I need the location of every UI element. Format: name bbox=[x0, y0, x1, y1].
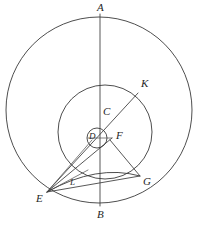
outer-circle bbox=[6, 17, 192, 203]
figure-canvas bbox=[0, 0, 199, 226]
segment-EF bbox=[47, 138, 112, 192]
point-label-A: A bbox=[97, 2, 104, 13]
point-label-G: G bbox=[143, 176, 151, 187]
point-label-K: K bbox=[141, 78, 148, 89]
point-label-D: D bbox=[89, 132, 96, 141]
point-label-F: F bbox=[116, 130, 123, 141]
segment-FG bbox=[110, 140, 140, 176]
geometry-figure: A B C D E F G K L bbox=[0, 0, 199, 226]
point-label-B: B bbox=[97, 209, 104, 220]
point-label-C: C bbox=[103, 106, 110, 117]
arc-E-L-G bbox=[47, 172, 140, 192]
point-label-E: E bbox=[36, 193, 43, 204]
segment-EG bbox=[47, 176, 140, 192]
point-label-L: L bbox=[70, 178, 75, 187]
